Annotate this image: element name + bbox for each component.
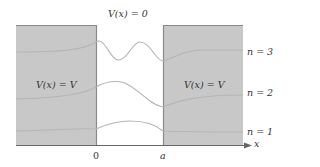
level-label-n2: n = 2 <box>247 88 273 98</box>
level-label-n3: n = 3 <box>247 47 273 57</box>
x-axis-arrow-icon <box>244 143 252 149</box>
x-axis-tick-a: a <box>160 151 166 161</box>
left-region-potential-label: V(x) = V <box>36 80 77 90</box>
level-label-n1: n = 1 <box>247 127 273 137</box>
right-region-potential-label: V(x) = V <box>184 80 225 90</box>
x-axis-tick-zero: 0 <box>93 151 99 161</box>
inside-potential-label: V(x) = 0 <box>108 9 148 19</box>
x-axis-label: x <box>254 139 259 149</box>
